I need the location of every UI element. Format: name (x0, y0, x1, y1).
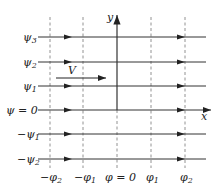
label-neg-phi2: −φ2 (40, 171, 62, 185)
arrow-icon (177, 84, 185, 89)
streamlines (38, 15, 211, 159)
flow-diagram: V y x ψ3 ψ2 ψ1 ψ = 0 −ψ1 −ψ2 −φ2 −φ1 φ =… (0, 0, 217, 194)
flow-direction-arrows (64, 35, 185, 162)
label-psi3: ψ3 (23, 31, 37, 45)
arrow-icon (64, 157, 72, 162)
x-axis-label: x (201, 110, 208, 123)
label-phi2: φ2 (180, 171, 193, 185)
arrow-icon (177, 60, 185, 65)
label-neg-phi1: −φ1 (74, 171, 96, 185)
label-psi1: ψ1 (23, 80, 37, 94)
label-neg-psi1: −ψ1 (17, 128, 40, 142)
arrow-icon (64, 132, 72, 137)
y-axis-label: y (106, 11, 114, 24)
label-psi2: ψ2 (23, 56, 37, 70)
velocity-label: V (68, 64, 77, 77)
arrow-icon (177, 108, 185, 113)
label-psi0: ψ = 0 (6, 104, 38, 117)
label-neg-psi2: −ψ2 (17, 153, 40, 167)
arrow-icon (64, 84, 72, 89)
equipotential-labels: −φ2 −φ1 φ = 0 φ1 φ2 (40, 171, 193, 185)
streamline-labels: ψ3 ψ2 ψ1 ψ = 0 −ψ1 −ψ2 (6, 31, 40, 167)
arrow-icon (64, 35, 72, 40)
arrow-icon (177, 132, 185, 137)
arrow-icon (64, 108, 72, 113)
arrow-icon (177, 35, 185, 40)
arrow-icon (177, 157, 185, 162)
label-phi1: φ1 (146, 171, 159, 185)
label-phi0: φ = 0 (105, 171, 136, 184)
